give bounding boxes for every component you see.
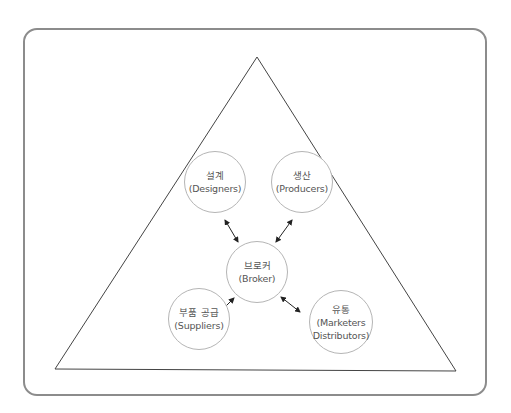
node-producers: 생산 (Producers) [271,151,333,213]
node-producers-korean-label: 생산 [293,169,311,182]
node-suppliers: 부품 공급 (Suppliers) [168,288,230,350]
arrow-broker-marketers [281,297,300,312]
node-marketers-korean-label: 유통 [332,303,350,316]
diagram-canvas [0,0,511,413]
node-suppliers-english-label: (Suppliers) [174,319,223,332]
node-designers-english-label: (Designers) [189,182,242,195]
node-marketers: 유통 (Marketers Distributors) [309,290,373,354]
node-marketers-english-label-1: (Marketers [316,316,365,329]
node-suppliers-korean-label: 부품 공급 [179,306,218,319]
node-producers-english-label: (Producers) [276,182,328,195]
node-broker-korean-label: 브로커 [244,259,271,272]
node-designers-korean-label: 설계 [206,169,224,182]
node-broker-english-label: (Broker) [239,272,276,285]
node-designers: 설계 (Designers) [184,151,246,213]
arrow-broker-designers [225,220,238,242]
node-broker: 브로커 (Broker) [226,241,288,303]
node-marketers-english-label-2: Distributors) [313,329,370,342]
triangle-shape [55,57,456,371]
arrow-broker-producers [276,220,292,242]
